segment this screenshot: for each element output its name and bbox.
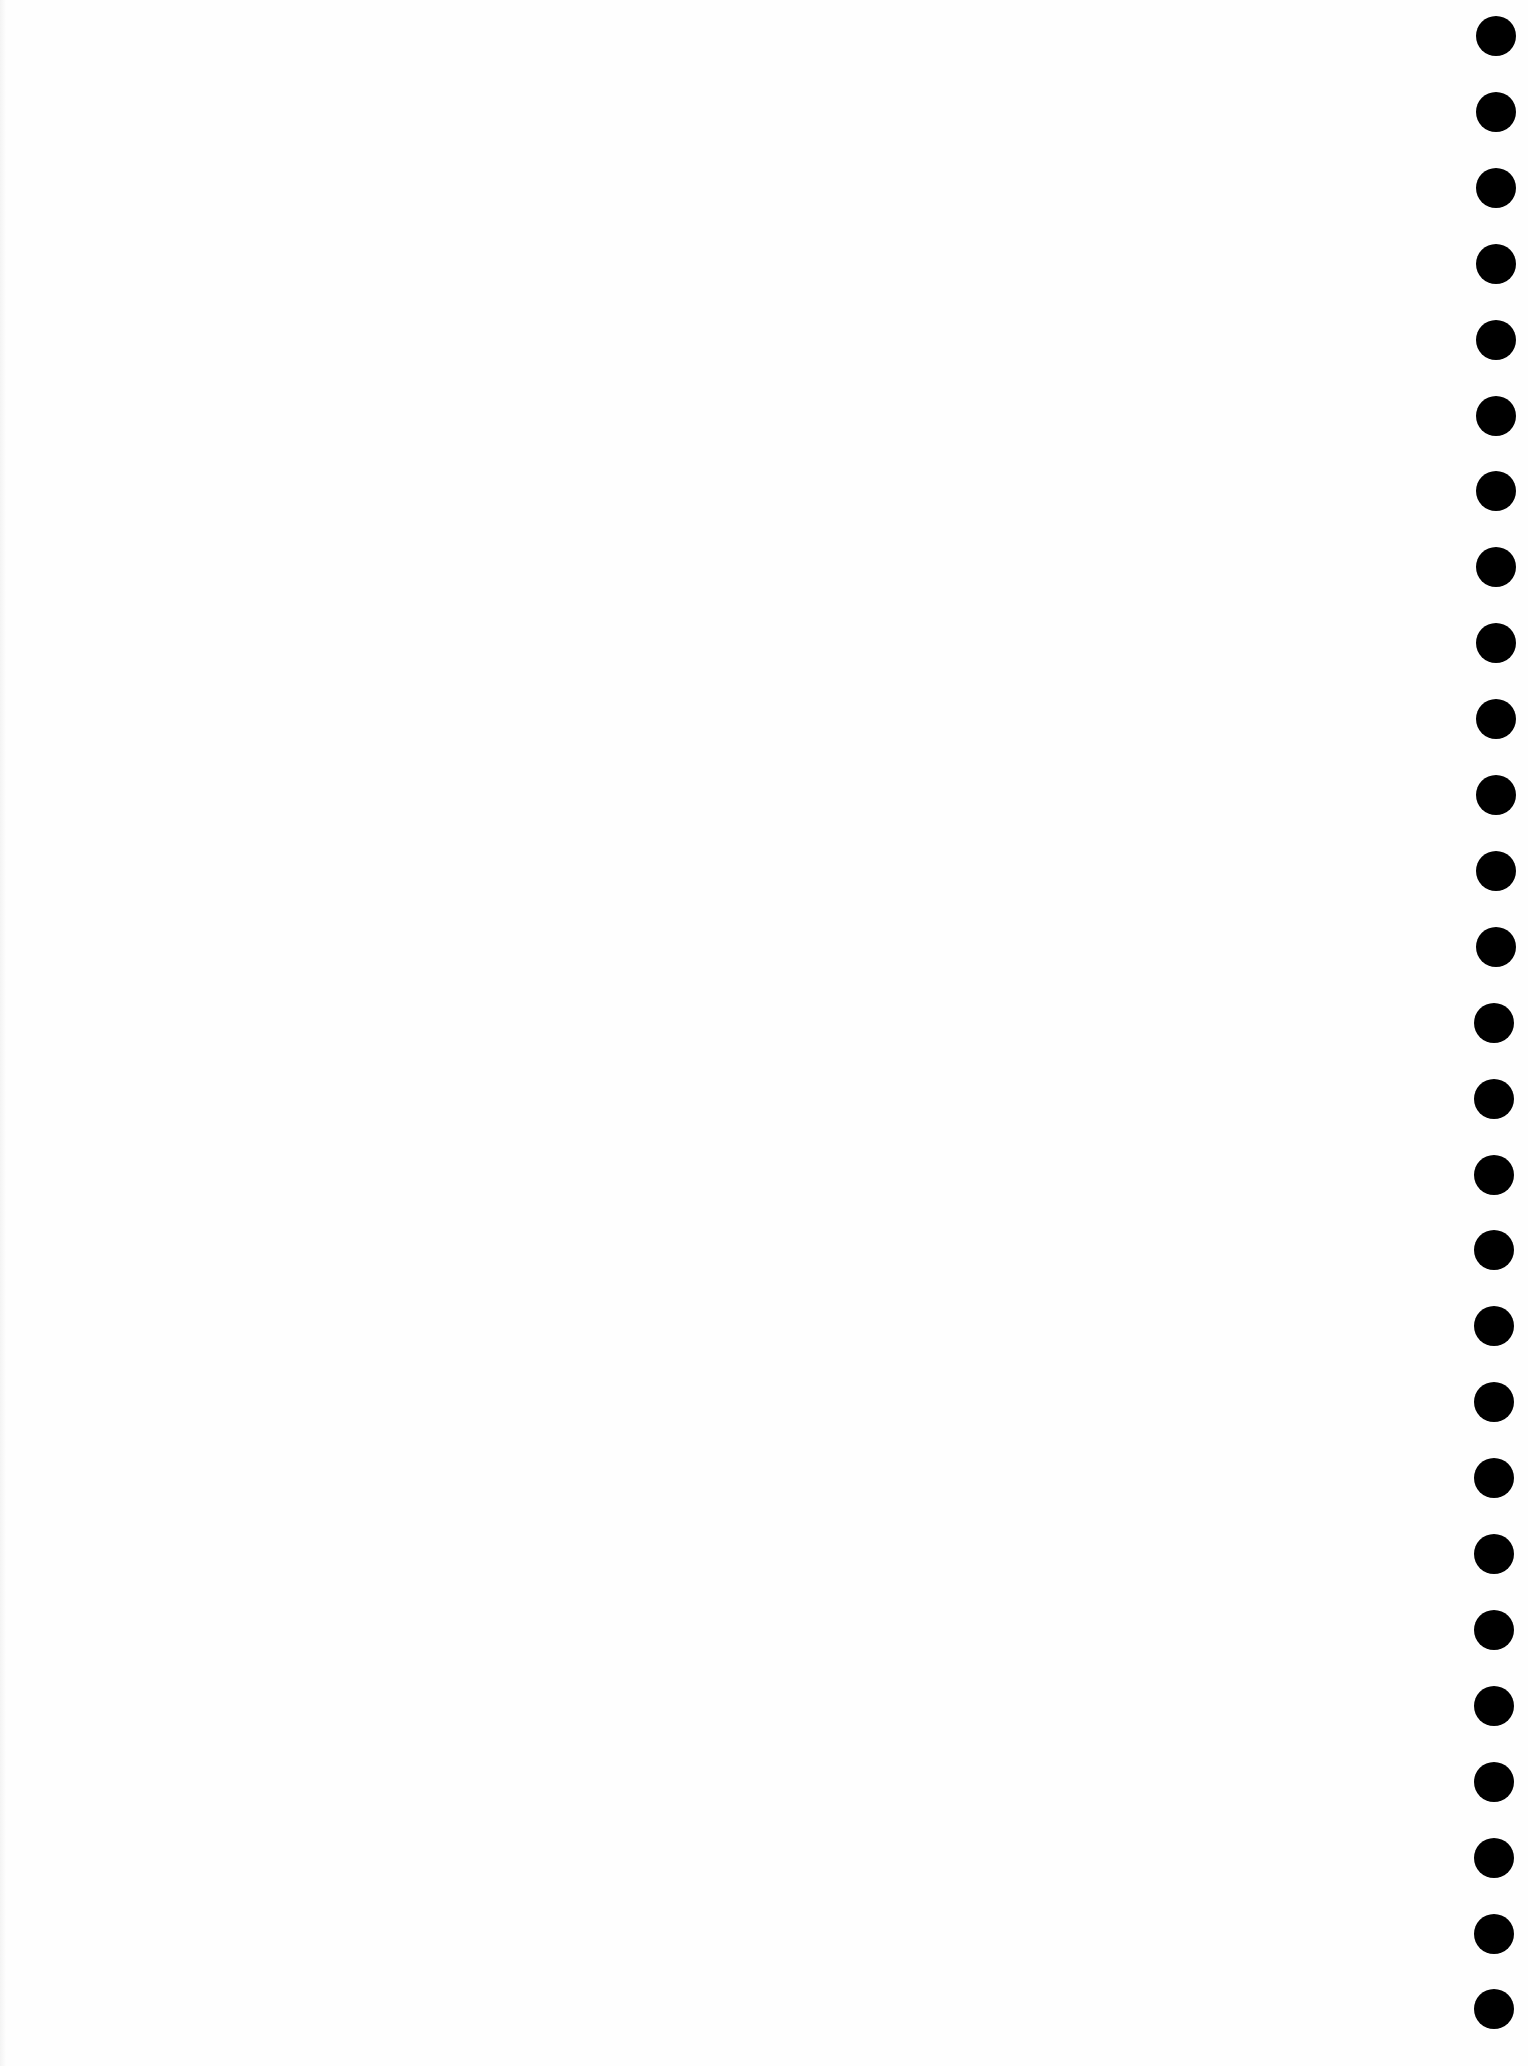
punch-hole-icon: [1474, 1003, 1514, 1043]
punch-hole-icon: [1476, 851, 1516, 891]
punch-hole-icon: [1476, 92, 1516, 132]
punch-hole-icon: [1476, 396, 1516, 436]
punch-hole-icon: [1474, 1230, 1514, 1270]
punch-hole-icon: [1474, 1914, 1514, 1954]
punch-hole-icon: [1474, 1534, 1514, 1574]
punch-hole-icon: [1474, 1838, 1514, 1878]
punch-hole-icon: [1476, 623, 1516, 663]
punch-hole-icon: [1474, 1382, 1514, 1422]
punch-hole-icon: [1476, 244, 1516, 284]
punch-hole-icon: [1476, 16, 1516, 56]
blank-page: [0, 0, 1528, 2066]
punch-hole-column: [1474, 0, 1518, 2066]
punch-hole-icon: [1476, 927, 1516, 967]
punch-hole-icon: [1474, 1762, 1514, 1802]
punch-hole-icon: [1474, 1989, 1514, 2029]
punch-hole-icon: [1474, 1610, 1514, 1650]
punch-hole-icon: [1474, 1686, 1514, 1726]
punch-hole-icon: [1476, 168, 1516, 208]
punch-hole-icon: [1476, 547, 1516, 587]
punch-hole-icon: [1474, 1306, 1514, 1346]
punch-hole-icon: [1476, 775, 1516, 815]
punch-hole-icon: [1476, 699, 1516, 739]
page-left-edge-shadow: [0, 0, 6, 2066]
punch-hole-icon: [1474, 1155, 1514, 1195]
punch-hole-icon: [1476, 471, 1516, 511]
punch-hole-icon: [1474, 1079, 1514, 1119]
punch-hole-icon: [1474, 1458, 1514, 1498]
punch-hole-icon: [1476, 320, 1516, 360]
